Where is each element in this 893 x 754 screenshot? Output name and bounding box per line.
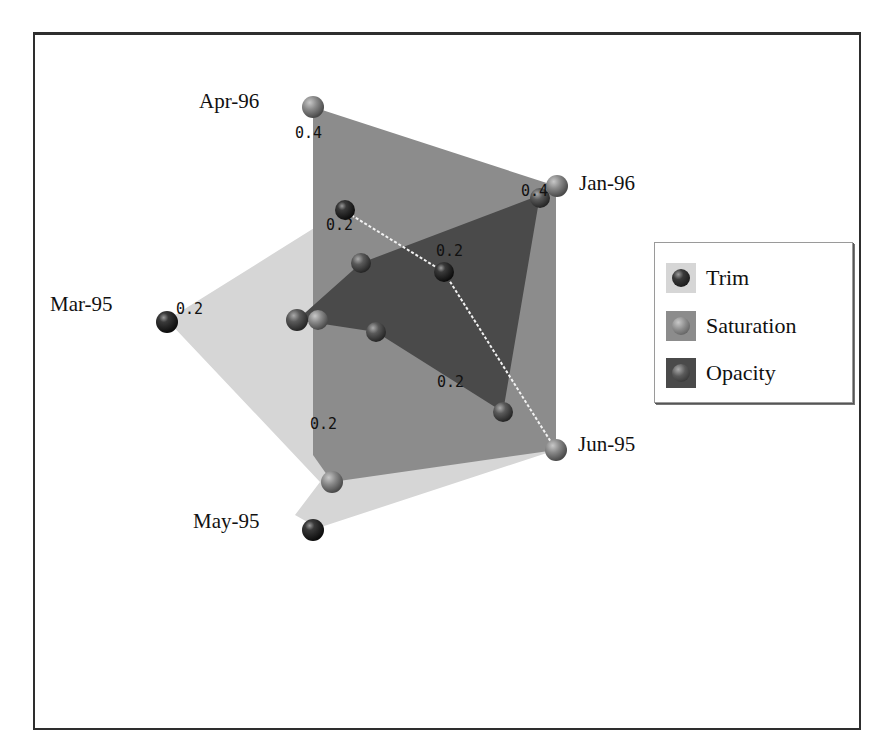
saturation-marker-jun95 [545,439,567,461]
saturation-marker-jan96 [546,175,568,197]
opacity-marker-jun95 [493,402,513,422]
legend-label-saturation: Saturation [706,313,796,339]
category-label-may95: May-95 [193,509,260,533]
legend-item-opacity[interactable]: Opacity [666,356,776,390]
category-label-jan96: Jan-96 [579,171,635,195]
legend-item-trim[interactable]: Trim [666,261,749,295]
legend: Trim Saturation Opacity [654,242,853,403]
saturation-marker-mar95 [308,310,328,330]
value-label: 0.2 [437,373,464,391]
legend-label-trim: Trim [706,265,749,291]
saturation-marker-may95 [321,471,343,493]
category-label-jun95: Jun-95 [578,432,635,456]
legend-label-opacity: Opacity [706,360,776,386]
value-label: 0.2 [436,242,463,260]
trim-swatch-icon [666,263,696,293]
opacity-marker-apr96 [351,253,371,273]
trim-marker-mar95 [156,311,178,333]
legend-item-saturation[interactable]: Saturation [666,309,796,343]
opacity-marker-mar95 [286,309,308,331]
category-label-apr96: Apr-96 [199,89,259,113]
value-label: 0.2 [326,216,353,234]
saturation-marker-apr96 [302,96,324,118]
value-label: 0.2 [310,415,337,433]
saturation-swatch-icon [666,311,696,341]
trim-marker-center [434,262,454,282]
value-label: 0.2 [176,300,203,318]
opacity-marker-may95 [366,322,386,342]
opacity-swatch-icon [666,358,696,388]
category-label-mar95: Mar-95 [50,292,113,316]
trim-marker-may95 [302,519,324,541]
value-label: 0.4 [295,124,322,142]
value-label: 0.4 [521,182,548,200]
